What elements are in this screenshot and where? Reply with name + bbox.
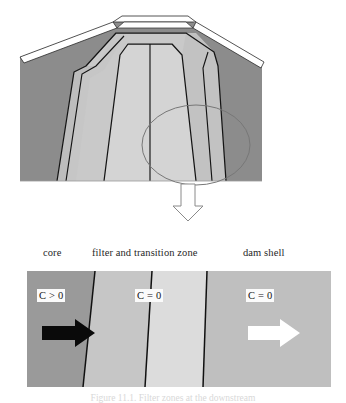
concentration-tag-shell: C = 0 — [246, 289, 274, 302]
detail-panel: C > 0 C = 0 C = 0 — [27, 271, 331, 387]
zone-label-filter: filter and transition zone — [92, 246, 198, 260]
zone-label-row: core filter and transition zone dam shel… — [0, 246, 346, 264]
figure-caption: Figure 11.1. Filter zones at the downstr… — [0, 392, 346, 403]
figure-container: core filter and transition zone dam shel… — [0, 0, 346, 403]
dam-crest-roadway — [117, 22, 193, 28]
concentration-tag-core: C > 0 — [37, 289, 65, 302]
zone-label-shell: dam shell — [243, 246, 284, 260]
dam-cross-section-diagram — [0, 0, 346, 230]
dam-crest-cap — [113, 16, 196, 22]
cross-section-svg — [0, 0, 346, 230]
down-arrow-callout-icon — [173, 184, 203, 221]
concentration-tag-filter: C = 0 — [135, 289, 163, 302]
detail-panel-svg — [27, 271, 331, 387]
zone-label-core: core — [43, 246, 61, 260]
